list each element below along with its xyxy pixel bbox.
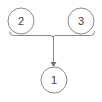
arrowhead-icon xyxy=(51,62,57,67)
diagram-canvas: 2 3 1 xyxy=(0,0,102,102)
node-2-label: 2 xyxy=(18,15,24,27)
node-3-label: 3 xyxy=(78,15,84,27)
node-2: 2 xyxy=(8,8,34,34)
node-3: 3 xyxy=(68,8,94,34)
node-1-label: 1 xyxy=(51,74,57,86)
node-1: 1 xyxy=(41,67,67,93)
